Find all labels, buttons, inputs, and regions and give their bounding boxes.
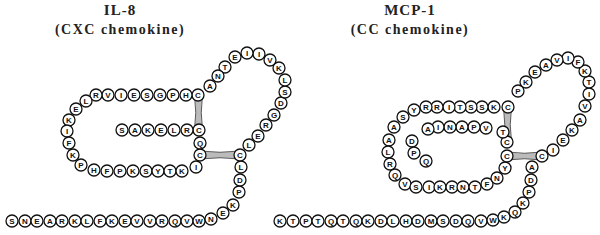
svg-text:S: S (143, 167, 149, 176)
svg-text:S: S (440, 217, 446, 226)
svg-text:E: E (232, 53, 238, 62)
svg-text:N: N (460, 183, 466, 192)
svg-text:I: I (552, 146, 554, 155)
svg-text:L: L (84, 97, 89, 106)
svg-text:V: V (554, 56, 560, 65)
residue-bead: V (144, 215, 156, 227)
svg-text:P: P (78, 161, 84, 170)
svg-text:Q: Q (172, 217, 178, 226)
residue-bead: V (102, 89, 114, 101)
svg-text:M: M (428, 217, 435, 226)
svg-text:P: P (471, 123, 477, 132)
residue-bead: A (383, 134, 395, 146)
residue-bead: K (142, 124, 154, 136)
svg-text:D: D (453, 217, 459, 226)
svg-text:Y: Y (155, 167, 161, 176)
residue-bead: K (517, 197, 529, 209)
svg-text:R: R (93, 91, 99, 100)
svg-text:L: L (239, 163, 244, 172)
residue-bead: I (547, 144, 559, 156)
residue-bead: E (128, 89, 140, 101)
svg-text:T: T (473, 183, 478, 192)
residue-bead: D (406, 135, 418, 147)
residue-bead: Q (169, 215, 181, 227)
svg-text:P: P (303, 217, 309, 226)
residue-bead: D (412, 215, 424, 227)
svg-text:K: K (582, 67, 588, 76)
residue-bead: I (583, 88, 595, 100)
residue-bead: S (141, 89, 153, 101)
svg-text:D: D (278, 99, 284, 108)
residue-bead: I (562, 52, 574, 64)
residue-bead: D (450, 215, 462, 227)
svg-text:G: G (271, 111, 277, 120)
svg-text:Y: Y (411, 106, 417, 115)
svg-text:S: S (468, 103, 474, 112)
svg-text:A: A (543, 61, 549, 70)
svg-text:R: R (184, 126, 190, 135)
residue-bead: V (480, 122, 492, 134)
residue-bead: T (312, 215, 324, 227)
svg-text:Q: Q (197, 139, 203, 148)
svg-text:F: F (576, 58, 581, 67)
residue-bead: L (80, 95, 92, 107)
svg-text:V: V (267, 56, 273, 65)
svg-text:P: P (117, 167, 123, 176)
residue-bead: I (443, 101, 455, 113)
svg-text:L: L (85, 217, 90, 226)
svg-text:Q: Q (353, 217, 359, 226)
svg-text:K: K (145, 126, 151, 135)
residue-bead: R (420, 101, 432, 113)
residue-bead: A (526, 161, 538, 173)
svg-text:K: K (66, 116, 72, 125)
svg-text:H: H (91, 166, 97, 175)
svg-text:Q: Q (392, 171, 398, 180)
residue-bead: D (375, 215, 387, 227)
residue-bead: I (423, 181, 435, 193)
residue-bead: V (131, 215, 143, 227)
residue-bead: N (491, 172, 503, 184)
residue-bead: F (101, 165, 113, 177)
svg-text:A: A (459, 123, 465, 132)
svg-text:N: N (447, 123, 453, 132)
svg-text:C: C (504, 152, 510, 161)
residue-bead: Q (350, 215, 362, 227)
svg-text:W: W (195, 217, 203, 226)
svg-text:L: L (283, 76, 288, 85)
residue-bead: P (75, 159, 87, 171)
residue-bead: P (523, 186, 535, 198)
svg-text:A: A (207, 82, 213, 91)
svg-text:V: V (105, 91, 111, 100)
svg-text:L: L (391, 217, 396, 226)
svg-text:D: D (237, 176, 243, 185)
svg-text:E: E (158, 126, 164, 135)
residue-bead: G (268, 109, 280, 121)
mcp1-structure: KTPTQTQKDLHDMSDQVWKQKPDACIEKAVITKFIVAEKP… (274, 52, 595, 227)
residue-bead: K (67, 149, 79, 161)
svg-text:K: K (130, 167, 136, 176)
svg-text:K: K (569, 126, 575, 135)
residue-bead: Q (194, 137, 206, 149)
svg-text:C: C (504, 138, 510, 147)
svg-text:C: C (505, 103, 511, 112)
residue-bead: K (106, 215, 118, 227)
residue-bead: V (181, 215, 193, 227)
svg-text:R: R (159, 217, 165, 226)
svg-text:G: G (157, 91, 163, 100)
svg-text:L: L (247, 141, 252, 150)
svg-text:R: R (263, 121, 269, 130)
residue-bead: N (444, 121, 456, 133)
residue-bead: E (119, 215, 131, 227)
residue-bead: R (446, 181, 458, 193)
residue-bead: T (497, 126, 509, 138)
residue-bead: A (204, 80, 216, 92)
residue-bead: K (488, 101, 500, 113)
svg-text:P: P (411, 149, 417, 158)
svg-text:R: R (449, 183, 455, 192)
residue-bead: T (583, 76, 595, 88)
residue-bead: A (456, 121, 468, 133)
svg-text:D: D (415, 217, 421, 226)
residue-bead: S (410, 181, 422, 193)
svg-text:C: C (197, 151, 203, 160)
residue-bead: Q (420, 155, 432, 167)
